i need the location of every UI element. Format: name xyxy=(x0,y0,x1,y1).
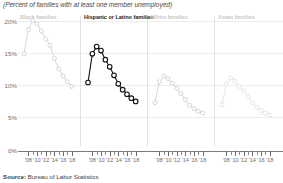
x-tick-2018 xyxy=(136,151,137,156)
x-tick-2008 xyxy=(28,151,29,156)
x-tick-2017 xyxy=(265,151,266,155)
series-hispanic-latino-families xyxy=(84,14,144,151)
tick-row-hispanic-latino-families xyxy=(84,151,144,156)
x-tick-2009 xyxy=(231,151,232,155)
x-tick-2014 xyxy=(252,151,253,156)
x-label-14: '14 xyxy=(51,157,58,163)
plot-area: Black families Hispanic or Latino famili… xyxy=(0,14,283,151)
x-label-16: '16 xyxy=(123,157,130,163)
x-label-10: '10 xyxy=(164,157,171,163)
x-label-12: '12 xyxy=(106,157,113,163)
x-tick-2009 xyxy=(164,151,165,155)
x-tick-2009 xyxy=(97,151,98,155)
x-tick-2010 xyxy=(235,151,236,156)
x-label-08: '08 xyxy=(156,157,163,163)
panel-divider-1 xyxy=(80,16,81,147)
x-tick-2014 xyxy=(185,151,186,156)
x-labels-white-families: '08'10'12'14'16'18 xyxy=(151,157,211,166)
tick-row-white-families xyxy=(151,151,211,156)
x-tick-2012 xyxy=(244,151,245,156)
x-tick-2011 xyxy=(105,151,106,155)
x-tick-2010 xyxy=(37,151,38,156)
x-tick-2010 xyxy=(168,151,169,156)
x-tick-2008 xyxy=(226,151,227,156)
x-label-12: '12 xyxy=(240,157,247,163)
tick-row-asian-families xyxy=(218,151,278,156)
series-white-families xyxy=(151,14,211,151)
x-tick-2015 xyxy=(123,151,124,155)
x-tick-2008 xyxy=(92,151,93,156)
x-label-18: '18 xyxy=(266,157,273,163)
chart-figure: (Percent of families with at least one m… xyxy=(0,0,283,183)
series-black-families xyxy=(20,14,80,151)
x-label-16: '16 xyxy=(257,157,264,163)
x-tick-2018 xyxy=(203,151,204,156)
x-tick-2013 xyxy=(181,151,182,155)
x-tick-2013 xyxy=(50,151,51,155)
panel-white-families: White families xyxy=(151,14,211,151)
panel-asian-families: Asian families xyxy=(218,14,278,151)
x-label-08: '08 xyxy=(25,157,32,163)
x-tick-2014 xyxy=(118,151,119,156)
x-tick-2010 xyxy=(101,151,102,156)
x-tick-2011 xyxy=(172,151,173,155)
x-tick-2012 xyxy=(110,151,111,156)
x-tick-2011 xyxy=(239,151,240,155)
x-tick-2009 xyxy=(33,151,34,155)
x-tick-2015 xyxy=(59,151,60,155)
x-tick-2016 xyxy=(63,151,64,156)
x-label-16: '16 xyxy=(190,157,197,163)
x-label-14: '14 xyxy=(115,157,122,163)
series-asian-families xyxy=(218,14,278,151)
x-label-08: '08 xyxy=(223,157,230,163)
x-label-10: '10 xyxy=(97,157,104,163)
tick-row-black-families xyxy=(20,151,80,156)
chart-subtitle: (Percent of families with at least one m… xyxy=(3,1,172,8)
x-tick-2011 xyxy=(41,151,42,155)
x-tick-2017 xyxy=(131,151,132,155)
x-tick-2016 xyxy=(127,151,128,156)
x-label-18: '18 xyxy=(132,157,139,163)
x-label-10: '10 xyxy=(231,157,238,163)
x-labels-black-families: '08'10'12'14'16'18 xyxy=(20,157,80,166)
panel-hispanic-latino-families: Hispanic or Latino families xyxy=(84,14,144,151)
x-label-18: '18 xyxy=(199,157,206,163)
panel-divider-2 xyxy=(147,16,148,147)
x-label-10: '10 xyxy=(33,157,40,163)
x-tick-2015 xyxy=(190,151,191,155)
x-tick-2018 xyxy=(72,151,73,156)
x-tick-2017 xyxy=(198,151,199,155)
x-label-18: '18 xyxy=(68,157,75,163)
panel-black-families: Black families xyxy=(20,14,80,151)
x-tick-2018 xyxy=(270,151,271,156)
x-tick-2012 xyxy=(46,151,47,156)
x-tick-2013 xyxy=(114,151,115,155)
source-label: Source: xyxy=(3,173,26,180)
source-note: Source: Bureau of Labor Statistics xyxy=(3,173,99,180)
x-tick-2014 xyxy=(54,151,55,156)
x-labels-asian-families: '08'10'12'14'16'18 xyxy=(218,157,278,166)
x-label-12: '12 xyxy=(42,157,49,163)
x-label-14: '14 xyxy=(182,157,189,163)
panel-divider-3 xyxy=(214,16,215,147)
x-tick-2016 xyxy=(261,151,262,156)
x-tick-2017 xyxy=(67,151,68,155)
x-tick-2012 xyxy=(177,151,178,156)
x-tick-2016 xyxy=(194,151,195,156)
x-label-08: '08 xyxy=(89,157,96,163)
x-label-16: '16 xyxy=(59,157,66,163)
x-tick-2008 xyxy=(159,151,160,156)
source-value: Bureau of Labor Statistics xyxy=(26,173,99,180)
x-tick-2013 xyxy=(248,151,249,155)
x-label-14: '14 xyxy=(249,157,256,163)
x-label-12: '12 xyxy=(173,157,180,163)
x-tick-2015 xyxy=(257,151,258,155)
x-labels-hispanic-latino-families: '08'10'12'14'16'18 xyxy=(84,157,144,166)
